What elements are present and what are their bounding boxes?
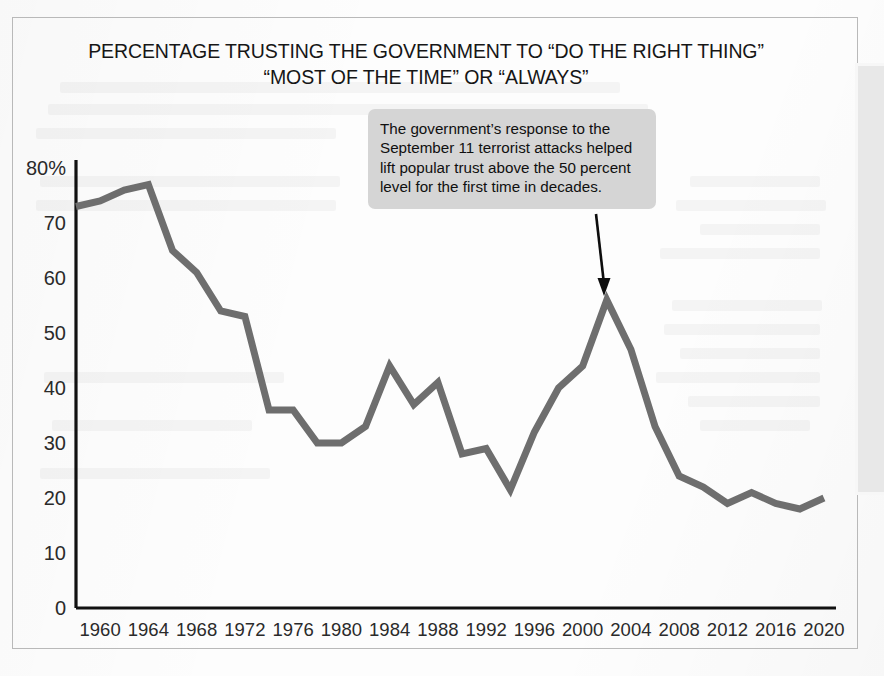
x-tick-label: 1968 <box>176 619 217 640</box>
x-tick-label: 1972 <box>224 619 265 640</box>
x-tick-label: 1980 <box>321 619 362 640</box>
x-tick-label: 2020 <box>803 619 844 640</box>
y-tick-label: 70 <box>44 212 66 234</box>
x-tick-label: 1988 <box>417 619 458 640</box>
y-tick-label: 0 <box>55 597 66 619</box>
annotation-callout: The government’s response to the Septemb… <box>368 109 656 209</box>
x-tick-label: 2012 <box>707 619 748 640</box>
chart-plot: 01020304050607080% 196019641968197219761… <box>0 0 884 676</box>
annotation-arrow <box>596 214 611 296</box>
y-tick-label: 10 <box>44 542 66 564</box>
y-tick-labels: 01020304050607080% <box>26 157 66 619</box>
x-tick-label: 1984 <box>369 619 410 640</box>
y-tick-label: 50 <box>44 322 66 344</box>
x-tick-labels: 1960196419681972197619801984198819921996… <box>80 619 845 640</box>
x-tick-label: 2016 <box>755 619 796 640</box>
x-tick-label: 2008 <box>659 619 700 640</box>
y-tick-label: 40 <box>44 377 66 399</box>
x-tick-label: 1964 <box>128 619 169 640</box>
x-tick-label: 1960 <box>80 619 121 640</box>
y-tick-label: 60 <box>44 267 66 289</box>
y-tick-label: 20 <box>44 487 66 509</box>
y-tick-label: 30 <box>44 432 66 454</box>
x-tick-label: 1996 <box>514 619 555 640</box>
trust-line-series <box>76 185 824 510</box>
x-tick-label: 1976 <box>273 619 314 640</box>
y-tick-label: 80% <box>26 157 66 179</box>
x-tick-label: 1992 <box>466 619 507 640</box>
x-tick-label: 2000 <box>562 619 603 640</box>
x-tick-label: 2004 <box>610 619 651 640</box>
